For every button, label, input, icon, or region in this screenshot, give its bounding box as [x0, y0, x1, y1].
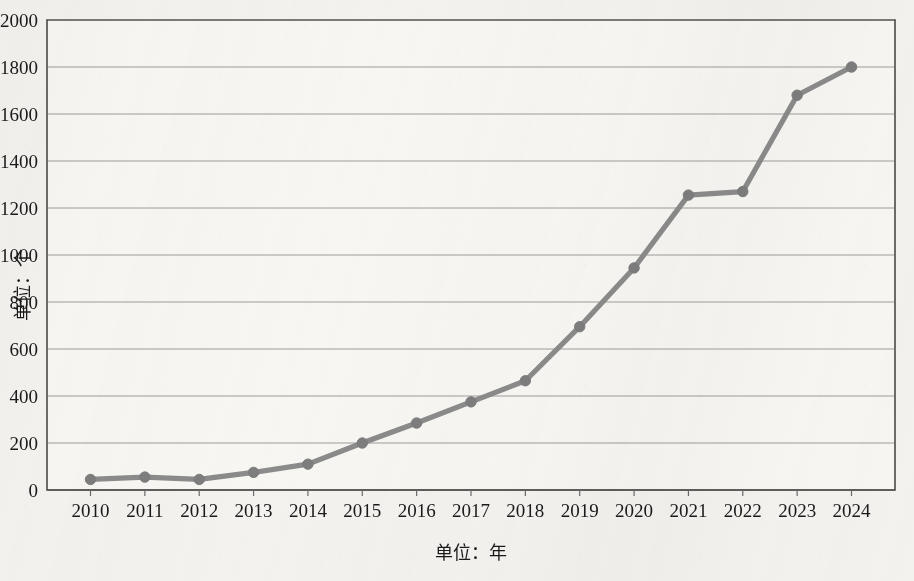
- data-point-marker: [248, 467, 258, 477]
- x-axis-tick-labels: 2010201120122013201420152016201720182019…: [71, 500, 871, 521]
- y-tick-label: 1600: [0, 104, 38, 125]
- data-point-marker: [683, 190, 693, 200]
- x-tick-label: 2019: [561, 500, 599, 521]
- x-tick-label: 2024: [833, 500, 872, 521]
- x-tick-label: 2015: [343, 500, 381, 521]
- x-tick-label: 2011: [126, 500, 163, 521]
- x-tick-label: 2014: [289, 500, 328, 521]
- x-tick-label: 2017: [452, 500, 490, 521]
- data-point-marker: [85, 474, 95, 484]
- y-tick-label: 600: [10, 339, 39, 360]
- x-tick-label: 2013: [235, 500, 273, 521]
- data-point-marker: [411, 418, 421, 428]
- y-tick-label: 1200: [0, 198, 38, 219]
- x-tick-label: 2018: [506, 500, 544, 521]
- y-tick-label: 200: [10, 433, 39, 454]
- data-point-marker: [846, 62, 856, 72]
- y-tick-label: 400: [10, 386, 39, 407]
- x-tick-label: 2020: [615, 500, 653, 521]
- x-axis-ticks: [90, 490, 851, 496]
- data-point-marker: [194, 474, 204, 484]
- data-point-marker: [738, 186, 748, 196]
- chart-figure: 0200400600800100012001400160018002000 20…: [0, 0, 914, 581]
- data-point-marker: [575, 321, 585, 331]
- data-point-marker: [466, 397, 476, 407]
- x-tick-label: 2010: [71, 500, 109, 521]
- data-point-marker: [792, 90, 802, 100]
- data-point-marker: [629, 263, 639, 273]
- x-tick-label: 2016: [398, 500, 436, 521]
- x-tick-label: 2022: [724, 500, 762, 521]
- y-tick-label: 1400: [0, 151, 38, 172]
- data-point-marker: [140, 472, 150, 482]
- x-tick-label: 2021: [669, 500, 707, 521]
- data-point-marker: [520, 376, 530, 386]
- x-axis-title: 单位：年: [435, 542, 507, 563]
- y-tick-label: 2000: [0, 10, 38, 31]
- x-tick-label: 2023: [778, 500, 816, 521]
- y-axis-title: 单位：个: [12, 249, 33, 321]
- y-tick-label: 1800: [0, 57, 38, 78]
- data-point-marker: [357, 438, 367, 448]
- line-chart-canvas: 0200400600800100012001400160018002000 20…: [0, 0, 914, 581]
- x-tick-label: 2012: [180, 500, 218, 521]
- data-point-marker: [303, 459, 313, 469]
- y-tick-label: 0: [29, 480, 39, 501]
